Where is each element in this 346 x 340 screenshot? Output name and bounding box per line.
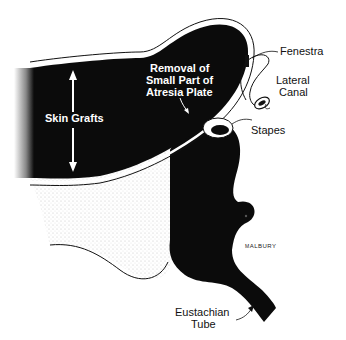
signature-name: ALBURY — [250, 243, 277, 249]
eustachian-leader — [236, 308, 252, 320]
tympanic-dot — [245, 215, 247, 217]
eustachian-arrowhead-icon — [248, 305, 254, 312]
label-eustachian-line2: Tube — [191, 318, 216, 330]
label-lateral-line1: Lateral — [276, 74, 310, 86]
middle-ear-cavity — [170, 123, 276, 322]
artist-signature: MALBURY — [245, 243, 277, 249]
label-removal-line3: Atresia Plate — [146, 86, 213, 98]
label-stapes: Stapes — [251, 124, 285, 136]
fenestra-window — [245, 55, 249, 67]
label-lateral-line2: Canal — [279, 86, 308, 98]
stapes-inner — [211, 125, 229, 135]
label-skin-grafts: Skin Grafts — [45, 112, 104, 124]
label-fenestra: Fenestra — [280, 45, 323, 57]
label-eustachian-line1: Eustachian — [175, 306, 229, 318]
fenestra-leader — [252, 51, 278, 58]
left-speckle-edge — [14, 68, 34, 178]
stapes-leader — [232, 119, 252, 124]
label-removal-line1: Removal of — [150, 62, 209, 74]
label-removal-line2: Small Part of — [146, 74, 213, 86]
